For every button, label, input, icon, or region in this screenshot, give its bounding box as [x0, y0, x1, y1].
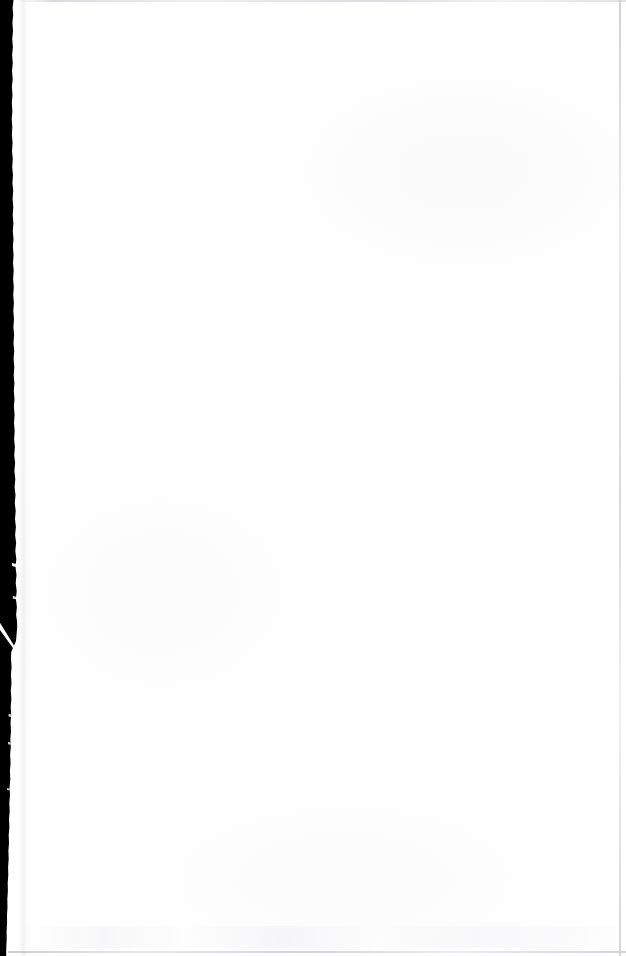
- scanned-document-page: [0, 0, 626, 956]
- scan-border-line-bottom: [8, 951, 626, 953]
- gutter-shape-svg: [0, 0, 40, 956]
- scan-border-line-right: [619, 0, 621, 956]
- scanner-gutter-shadow: [0, 0, 40, 956]
- scan-smudge-band-bottom: [20, 926, 616, 948]
- gutter-body-path: [0, 0, 17, 956]
- scan-border-line-top: [16, 0, 626, 2]
- paper-surface: [0, 0, 626, 956]
